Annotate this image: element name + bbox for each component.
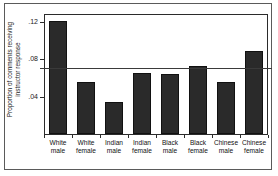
y-axis-title: Proportion of comments receiving instruc… [6,10,21,130]
x-axis-tick [268,135,269,138]
bar [49,21,67,134]
y-axis-tick-label: .08 [8,55,38,62]
x-axis-tick [128,135,129,138]
bar [133,73,151,134]
x-axis-label-line: female [237,147,271,155]
x-axis-tick [156,135,157,138]
x-axis-tick [240,135,241,138]
x-axis-label-line: Chinese [237,139,271,147]
y-axis-tick-label: .12 [8,18,38,25]
bar [245,51,263,134]
bar [77,82,95,135]
bar [105,102,123,134]
x-axis-tick [212,135,213,138]
bar [217,82,235,135]
bar [161,74,179,134]
y-axis-tick-label: .04 [8,93,38,100]
bar [189,66,207,134]
x-axis-tick [44,135,45,138]
x-axis-tick [100,135,101,138]
x-axis-labels: WhitemaleWhitefemaleIndianmaleIndianfema… [44,139,268,163]
y-axis-title-line-1: Proportion of comments receiving [6,10,14,130]
x-axis-label: Chinesefemale [237,139,271,155]
y-axis-title-line-2: instructor response [14,10,22,130]
x-axis-tick [72,135,73,138]
reference-line [40,68,272,69]
bar-series [44,14,268,134]
figure-canvas: Proportion of comments receiving instruc… [0,0,278,176]
x-axis-tick [184,135,185,138]
